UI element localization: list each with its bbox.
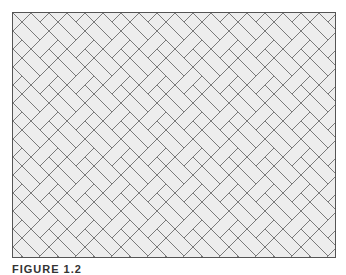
herringbone-pattern-figure xyxy=(12,12,336,258)
herringbone-pattern-svg xyxy=(13,13,336,258)
figure-caption: FIGURE 1.2 xyxy=(12,264,82,275)
